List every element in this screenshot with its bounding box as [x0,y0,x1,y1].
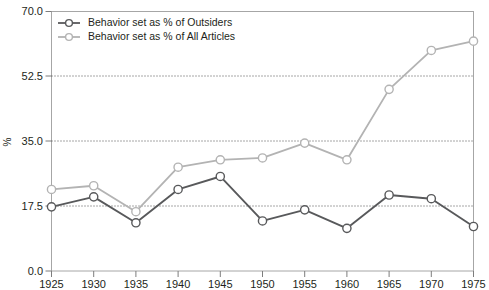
x-tick-label-1960: 1960 [335,278,359,290]
x-tick-label-1965: 1965 [377,278,401,290]
x-tick-label-1950: 1950 [250,278,274,290]
chart-canvas: 70.0 52.5 35.0 17.5 0.0 % 1925 1930 1935… [0,0,489,290]
x-tick-label-1970: 1970 [419,278,443,290]
x-tick-label-1975: 1975 [461,278,485,290]
data-point-marker[interactable] [469,37,477,45]
data-point-marker[interactable] [258,154,266,162]
x-tick-label-1935: 1935 [124,278,148,290]
data-point-marker[interactable] [427,46,435,54]
x-tick-label-1945: 1945 [208,278,232,290]
data-point-marker[interactable] [174,185,182,193]
y-tick-label-0: 0.0 [28,265,43,277]
data-point-marker[interactable] [385,85,393,93]
data-point-marker[interactable] [47,185,55,193]
legend-label-all-articles: Behavior set as % of All Articles [88,30,235,42]
legend-marker-icon-all-articles [66,34,73,41]
line-chart: 70.0 52.5 35.0 17.5 0.0 % 1925 1930 1935… [0,0,489,290]
data-point-marker[interactable] [174,163,182,171]
data-point-marker[interactable] [47,203,55,211]
y-axis-title: % [2,137,13,146]
data-point-marker[interactable] [301,139,309,147]
y-tick-label-52-5: 52.5 [22,70,43,82]
legend-label-outsiders: Behavior set as % of Outsiders [88,16,232,28]
x-tick-label-1925: 1925 [39,278,63,290]
data-point-marker[interactable] [216,172,224,180]
data-point-marker[interactable] [469,222,477,230]
data-point-marker[interactable] [301,206,309,214]
data-point-marker[interactable] [216,156,224,164]
data-point-marker[interactable] [132,208,140,216]
x-tick-label-1955: 1955 [292,278,316,290]
chart-background [0,0,489,290]
data-point-marker[interactable] [427,195,435,203]
x-tick-label-1930: 1930 [81,278,105,290]
y-tick-label-70: 70.0 [22,5,43,17]
legend-marker-icon-outsiders [66,20,73,27]
y-tick-label-35: 35.0 [22,135,43,147]
x-tick-label-1940: 1940 [166,278,190,290]
y-tick-label-17-5: 17.5 [22,200,43,212]
data-point-marker[interactable] [343,224,351,232]
data-point-marker[interactable] [258,217,266,225]
data-point-marker[interactable] [90,193,98,201]
data-point-marker[interactable] [385,191,393,199]
data-point-marker[interactable] [132,219,140,227]
data-point-marker[interactable] [343,156,351,164]
data-point-marker[interactable] [90,182,98,190]
